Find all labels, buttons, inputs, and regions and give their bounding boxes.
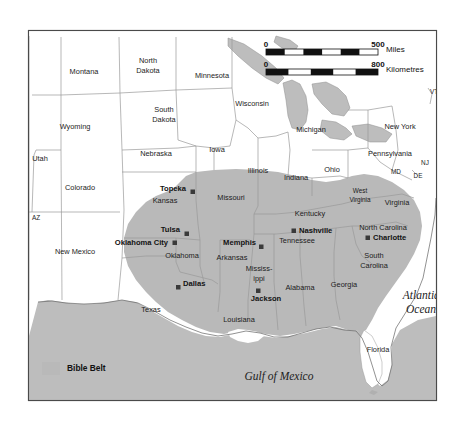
scale-miles-end: 500 [371,40,385,49]
state-label-north-dakota-line2: Dakota [136,66,160,75]
state-label-utah: Utah [32,154,48,163]
map-canvas: Montana North Dakota Minnesota Wisconsin… [0,0,467,437]
state-label-montana: Montana [70,67,100,76]
state-label-arizona: AZ [32,214,40,221]
scale-miles-unit: Miles [386,45,405,54]
state-label-kansas: Kansas [153,196,178,205]
city-label-nashville: Nashville [299,226,332,235]
city-marker-charlotte[interactable] [366,236,371,241]
state-label-south-dakota-line2: Dakota [152,115,176,124]
scale-miles-bar [266,49,378,55]
scale-km-end: 800 [371,60,385,69]
scale-km-start: 0 [264,60,269,69]
state-label-north-dakota-line1: North [139,56,157,65]
state-label-nebraska: Nebraska [140,149,173,158]
state-label-illinois: Illinois [248,166,269,175]
state-label-iowa: Iowa [209,145,226,154]
state-label-minnesota: Minnesota [195,71,230,80]
city-label-memphis: Memphis [223,238,256,247]
city-label-oklahoma-city: Oklahoma City [115,238,169,247]
city-marker-oklahoma-city[interactable] [173,241,178,246]
state-label-north-carolina: North Carolina [359,223,408,232]
bible-belt-map-figure: Montana North Dakota Minnesota Wisconsin… [0,0,467,437]
city-marker-topeka[interactable] [191,190,196,195]
state-label-tennessee: Tennessee [279,236,315,245]
state-label-michigan: Michigan [296,125,326,134]
city-marker-dallas[interactable] [176,285,181,290]
state-label-new-york: New York [384,122,416,131]
state-label-oklahoma: Oklahoma [165,251,200,260]
scale-miles-start: 0 [264,40,269,49]
state-label-wisconsin: Wisconsin [235,99,269,108]
state-label-west-virginia-line2: Virginia [349,196,371,204]
water-label-atlantic-line2: Ocean [406,303,436,315]
state-label-florida: Florida [367,345,390,354]
city-label-topeka: Topeka [160,184,187,193]
state-label-ohio: Ohio [324,165,340,174]
state-label-maryland: MD [391,168,401,175]
state-label-wyoming: Wyoming [60,122,91,131]
scale-kilometres-bar [266,69,378,75]
state-label-new-jersey: NJ [421,159,429,166]
water-label-gulf-of-mexico: Gulf of Mexico [245,370,314,383]
state-label-delaware: DE [414,172,423,179]
state-label-south-carolina-line2: Carolina [360,261,388,270]
state-label-arkansas: Arkansas [217,253,248,262]
state-label-west-virginia-line1: West [353,187,368,194]
city-marker-jackson[interactable] [256,289,261,294]
legend: Bible Belt [42,362,106,375]
state-label-colorado: Colorado [65,183,95,192]
city-label-dallas: Dallas [183,279,205,288]
city-label-jackson: Jackson [251,294,282,303]
city-marker-nashville[interactable] [292,229,297,234]
city-label-tulsa: Tulsa [161,225,181,234]
state-label-texas: Texas [141,305,161,314]
state-label-new-mexico: New Mexico [55,247,95,256]
state-label-pennsylvania: Pennsylvania [368,149,413,158]
state-label-georgia: Georgia [331,280,358,289]
state-label-south-dakota-line1: South [154,105,173,114]
state-label-missouri: Missouri [217,193,245,202]
state-label-mississippi-line2: ippi [253,274,265,283]
state-label-south-carolina-line1: South [364,251,383,260]
state-label-louisiana: Louisiana [223,315,256,324]
scale-km-unit: Kilometres [386,65,424,74]
city-label-charlotte: Charlotte [373,233,406,242]
state-label-indiana: Indiana [284,173,309,182]
city-marker-memphis[interactable] [259,245,264,250]
water-label-atlantic-line1: Atlantic [402,289,439,301]
state-label-alabama: Alabama [285,283,315,292]
state-label-mississippi-line1: Mississ- [246,264,273,273]
state-label-virginia: Virginia [385,198,410,207]
state-label-kentucky: Kentucky [295,209,326,218]
legend-swatch-bible-belt [42,362,60,375]
city-marker-tulsa[interactable] [185,232,190,237]
legend-label-bible-belt: Bible Belt [67,363,106,373]
